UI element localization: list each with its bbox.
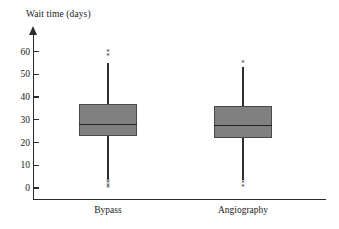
y-axis-tick-label: 50 [10,69,30,79]
y-axis-tick [34,165,39,166]
y-axis-tick-label: 30 [10,115,30,125]
plot-area: 0102030405060********* [0,0,339,229]
median-line [79,124,137,126]
x-axis-category-label: Angiography [218,205,268,215]
y-axis-tick [34,187,39,188]
box-rect [79,104,137,136]
y-axis-tick-label: 20 [10,138,30,148]
outlier-marker: * [106,50,110,54]
outlier-marker: * [241,181,245,185]
y-axis-tick-label: 0 [10,183,30,193]
y-axis-tick [34,74,39,75]
y-axis-tick [34,119,39,120]
y-axis-tick-label: 10 [10,160,30,170]
x-axis-line [33,199,326,200]
y-axis-tick-label: 60 [10,47,30,57]
outlier-marker: * [241,61,245,65]
box-plot-figure: Wait time (days) 0102030405060********* … [0,0,339,229]
outlier-marker: * [106,179,110,183]
median-line [214,125,272,127]
y-axis-line [33,33,34,200]
y-axis-tick [34,142,39,143]
y-axis-tick [34,96,39,97]
y-axis-tick-label: 40 [10,92,30,102]
y-axis-tick [34,51,39,52]
x-axis-category-label: Bypass [94,205,121,215]
box-rect [214,106,272,138]
